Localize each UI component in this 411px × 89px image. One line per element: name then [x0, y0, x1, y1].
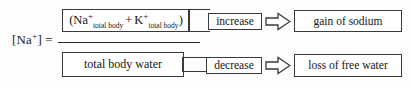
fraction-bar — [58, 42, 200, 43]
plus-operator: + — [123, 13, 134, 27]
connector-bottom-segment — [182, 71, 208, 72]
denominator-label: total body water — [84, 58, 162, 71]
potassium-subscript: total body — [148, 21, 178, 30]
increase-box: increase — [208, 13, 262, 30]
sodium-formula-diagram: [Na+] = (Na+total body+K+total body) tot… — [0, 0, 411, 89]
sodium-charge: + — [88, 11, 93, 21]
denominator-connector — [182, 57, 208, 72]
loss-of-free-water-label: loss of free water — [308, 59, 388, 72]
formula-label-suffix: ] = — [37, 32, 53, 47]
formula-label: [Na+] = — [12, 33, 53, 47]
block-arrow-right-icon — [265, 12, 291, 31]
block-arrow-right-icon — [265, 56, 291, 75]
decrease-label: decrease — [214, 59, 254, 72]
increase-label: increase — [216, 15, 254, 28]
numerator-box: (Na+total body+K+total body) — [62, 9, 190, 32]
gain-of-sodium-box: gain of sodium — [294, 10, 402, 32]
potassium-charge: + — [143, 11, 148, 21]
sodium-subscript: total body — [93, 21, 123, 30]
connector-top-segment — [188, 9, 210, 10]
gain-of-sodium-label: gain of sodium — [314, 15, 383, 28]
potassium-symbol: K — [134, 13, 143, 27]
sodium-symbol: Na — [73, 13, 88, 27]
connector-bottom-segment — [188, 31, 210, 32]
connector-vertical-segment — [188, 9, 189, 32]
formula-label-prefix: [Na — [12, 32, 32, 47]
denominator-box: total body water — [62, 52, 184, 77]
decrease-box: decrease — [206, 57, 262, 74]
loss-of-free-water-box: loss of free water — [294, 54, 402, 77]
close-paren: ) — [179, 13, 183, 27]
numerator-expression: (Na+total body+K+total body) — [69, 14, 183, 27]
numerator-connector — [188, 9, 210, 32]
connector-top-segment — [182, 57, 208, 58]
